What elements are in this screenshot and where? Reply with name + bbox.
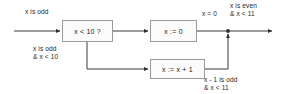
edge-label-reset-out-line1: x = 0 (202, 10, 217, 18)
edge-label-increment-out-line1: x - 1 is odd (204, 76, 237, 84)
node-increment[interactable]: x := x + 1 (150, 59, 205, 79)
edge-label-branch-true: x is odd & x < 10 (33, 45, 58, 61)
edge-label-output-line2: & x < 11 (230, 10, 257, 18)
edge-label-reset-out: x = 0 (202, 10, 217, 18)
edge-label-branch-true-line2: & x < 10 (33, 53, 58, 61)
flow-diagram: x < 10 ? x := 0 x := x + 1 x is odd x is… (0, 0, 289, 94)
edge-condition-to-increment (87, 42, 148, 69)
node-condition[interactable]: x < 10 ? (62, 20, 113, 42)
edge-label-output: x is even & x < 11 (230, 2, 257, 18)
edge-label-increment-out-line2: & x < 11 (204, 84, 237, 92)
edge-label-input-line1: x is odd (25, 8, 49, 16)
edge-label-input: x is odd (25, 8, 49, 16)
node-reset-label: x := 0 (164, 28, 183, 35)
node-increment-label: x := x + 1 (162, 66, 193, 73)
node-condition-label: x < 10 ? (74, 28, 101, 35)
edge-label-increment-out: x - 1 is odd & x < 11 (204, 76, 237, 92)
node-reset[interactable]: x := 0 (150, 20, 197, 42)
edge-label-branch-true-line1: x is odd (33, 45, 58, 53)
edge-increment-to-merge (205, 34, 228, 69)
edge-label-output-line1: x is even (230, 2, 257, 10)
